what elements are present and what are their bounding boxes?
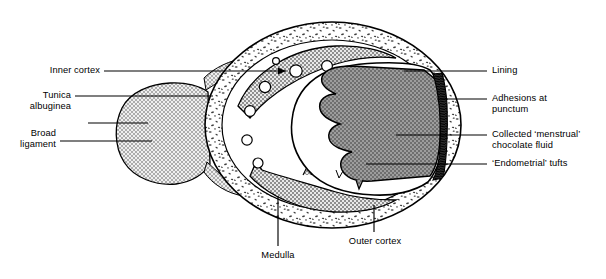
- ovary-body: [205, 22, 461, 228]
- label-outer-cortex: Outer cortex: [336, 236, 414, 247]
- label-lining: Lining: [492, 65, 517, 76]
- label-broad-ligament: Broad ligament: [0, 128, 56, 150]
- label-tunica-albuginea: Tunica albuginea: [0, 90, 71, 112]
- label-inner-cortex: Inner cortex: [0, 65, 100, 76]
- label-collected-chocolate-fluid: Collected ‘menstrual’ chocolate fluid: [492, 129, 580, 151]
- label-endometrial-tufts: ‘Endometrial’ tufts: [492, 158, 567, 169]
- label-adhesions-at-punctum: Adhesions at punctum: [492, 93, 547, 115]
- label-medulla: Medulla: [248, 250, 308, 261]
